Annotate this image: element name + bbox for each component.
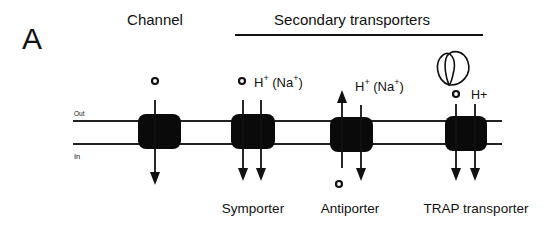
channel-protein xyxy=(138,114,181,149)
trap-transporter: H+ TRAP transporter xyxy=(424,52,529,216)
channel xyxy=(138,78,181,185)
arrow-down-icon xyxy=(256,168,266,181)
antiporter-protein xyxy=(330,117,373,152)
channel-header: Channel xyxy=(127,11,183,28)
trap-label: TRAP transporter xyxy=(424,201,529,216)
transporter-diagram: A Channel Secondary transporters Out In … xyxy=(0,0,553,228)
arrow-down-icon xyxy=(451,168,461,181)
arrow-down-icon xyxy=(356,168,366,181)
trap-protein xyxy=(445,116,487,151)
antiporter-label: Antiporter xyxy=(321,201,380,216)
antiporter-ion-label: H+ (Na+) xyxy=(355,77,404,94)
panel-label: A xyxy=(22,22,42,55)
substrate-icon xyxy=(152,78,158,84)
in-label: In xyxy=(74,152,80,161)
antiporter: H+ (Na+) Antiporter xyxy=(321,77,404,216)
out-label: Out xyxy=(74,110,85,117)
arrow-down-icon xyxy=(238,168,248,181)
substrate-icon xyxy=(336,181,342,187)
binding-protein-icon xyxy=(437,52,468,85)
arrow-down-icon xyxy=(470,168,480,181)
trap-ion-label: H+ xyxy=(471,88,487,102)
substrate-icon xyxy=(239,78,245,84)
symporter-protein xyxy=(231,114,275,149)
symporter-ion-label: H+ (Na+) xyxy=(254,73,303,90)
substrate-icon xyxy=(453,91,459,97)
arrow-down-icon xyxy=(150,172,160,185)
arrow-up-icon xyxy=(337,90,347,103)
symporter-label: Symporter xyxy=(222,201,285,216)
secondary-header: Secondary transporters xyxy=(274,11,430,28)
